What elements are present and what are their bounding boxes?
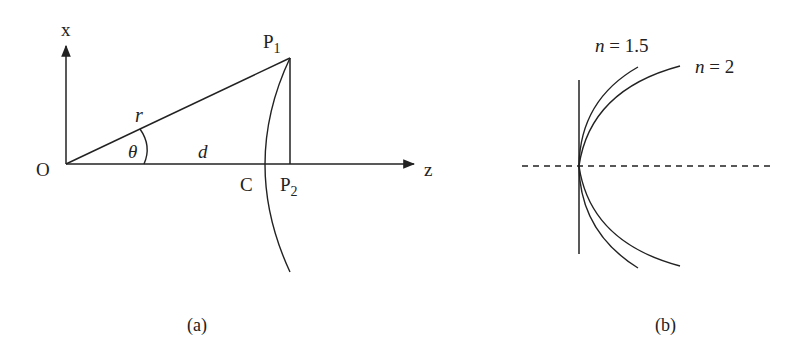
- curve-n-1-5: [579, 67, 638, 268]
- point-p2-label: P2: [280, 174, 298, 199]
- point-p1-label: P1: [263, 31, 281, 56]
- angle-arc: [140, 129, 147, 164]
- figure: x z O P1 P2 C r θ d (a) n = 1.5 n = 2 (b…: [0, 0, 794, 353]
- curve-label-n-2: n = 2: [695, 56, 734, 77]
- radius-label: r: [135, 104, 143, 126]
- origin-label: O: [36, 159, 50, 180]
- caption-a: (a): [187, 315, 207, 336]
- distance-label: d: [198, 141, 208, 162]
- radius-line: [66, 58, 290, 164]
- panel-b: n = 1.5 n = 2 (b): [522, 35, 770, 336]
- point-c-label: C: [240, 174, 253, 195]
- curve-label-n-1-5: n = 1.5: [595, 35, 648, 56]
- wavefront-curve: [265, 58, 290, 272]
- caption-b: (b): [655, 315, 676, 336]
- angle-label: θ: [128, 141, 137, 162]
- panel-a: x z O P1 P2 C r θ d (a): [36, 19, 432, 336]
- axis-z-label: z: [424, 159, 432, 180]
- axis-x-label: x: [61, 19, 71, 40]
- curve-n-2: [579, 66, 680, 266]
